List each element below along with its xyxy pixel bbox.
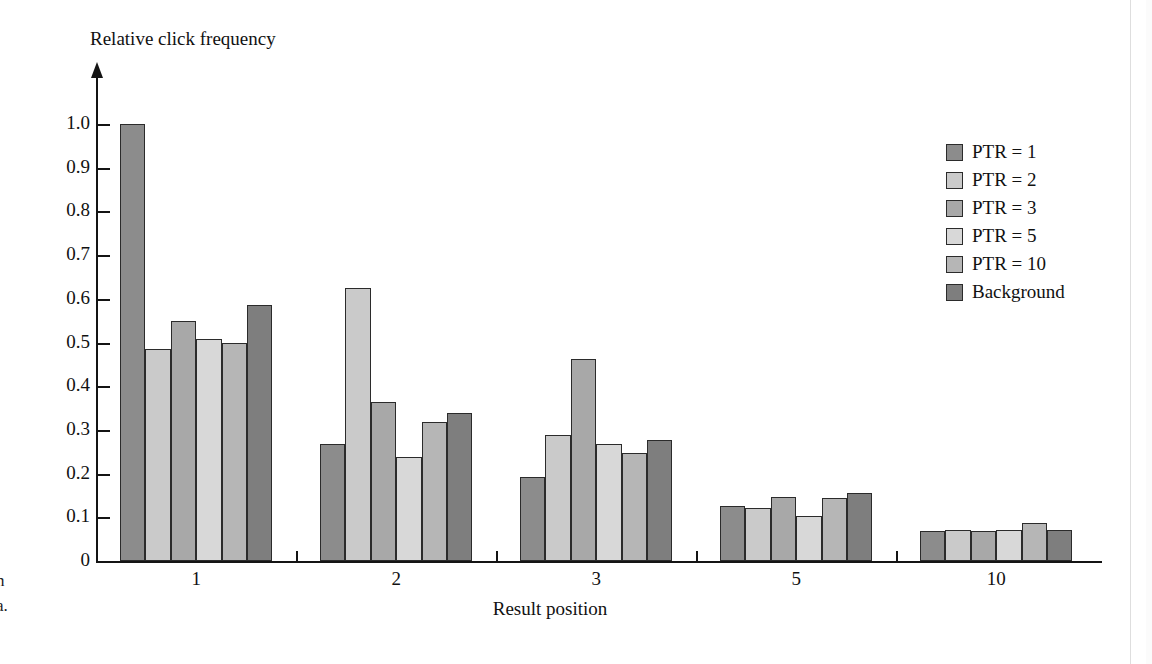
legend-swatch-icon (946, 172, 963, 189)
y-axis-tick: 0.7 (98, 255, 110, 257)
y-axis-tick-label: 0.7 (40, 243, 90, 265)
y-axis-tick: 0.1 (98, 517, 110, 519)
bar (222, 343, 247, 562)
legend-item: PTR = 1 (946, 138, 1065, 166)
y-axis-tick: 0.4 (98, 386, 110, 388)
bar (647, 440, 672, 561)
legend-label: PTR = 10 (972, 253, 1046, 275)
y-axis-tick: 0.2 (98, 474, 110, 476)
y-axis-tick: 0.5 (98, 343, 110, 345)
bar (996, 530, 1021, 561)
legend-label: PTR = 2 (972, 169, 1037, 191)
y-axis-tick-label: 0.5 (40, 331, 90, 353)
bar (745, 508, 770, 561)
bar (422, 422, 447, 561)
y-axis-title: Relative click frequency (90, 28, 276, 50)
legend-item: Background (946, 278, 1065, 306)
legend-label: Background (972, 281, 1065, 303)
x-axis-group-label: 1 (166, 568, 226, 590)
legend-item: PTR = 5 (946, 222, 1065, 250)
bar (920, 531, 945, 561)
bar (822, 498, 847, 561)
bar (1022, 523, 1047, 561)
bar (345, 288, 370, 561)
page-edge-line (1130, 0, 1131, 664)
bar (571, 359, 596, 561)
y-axis-tick-label: 0.4 (40, 374, 90, 396)
y-axis-line (96, 76, 98, 561)
bar (196, 339, 221, 561)
figure-bar-chart: n a. Relative click frequency Result pos… (0, 0, 1152, 664)
legend-swatch-icon (946, 200, 963, 217)
clipped-caption-line-1: n (0, 568, 36, 593)
legend-label: PTR = 5 (972, 225, 1037, 247)
bar (720, 506, 745, 561)
x-axis-line (96, 561, 1102, 563)
y-axis-tick-label: 0.2 (40, 462, 90, 484)
legend-label: PTR = 3 (972, 197, 1037, 219)
legend-swatch-icon (946, 144, 963, 161)
x-axis-group-label: 10 (966, 568, 1026, 590)
y-axis-tick-label: 0.6 (40, 287, 90, 309)
y-axis-tick: 0.9 (98, 168, 110, 170)
x-axis-group-label: 3 (566, 568, 626, 590)
bar (320, 444, 345, 561)
x-axis-group-label: 5 (766, 568, 826, 590)
y-axis-tick-label: 0.9 (40, 156, 90, 178)
legend-swatch-icon (946, 256, 963, 273)
y-axis-tick: 0.3 (98, 430, 110, 432)
legend-label: PTR = 1 (972, 141, 1037, 163)
x-axis-tick (896, 551, 898, 562)
y-axis-tick: 0.6 (98, 299, 110, 301)
bar (622, 453, 647, 561)
y-axis-arrow-icon (91, 62, 103, 78)
y-axis-tick-label: 0.1 (40, 505, 90, 527)
bar (371, 402, 396, 561)
bar (120, 124, 145, 561)
legend-swatch-icon (946, 284, 963, 301)
bar (796, 516, 821, 561)
y-axis-tick-label: 0.8 (40, 199, 90, 221)
y-axis-tick-label: 0 (40, 549, 90, 571)
bar (247, 305, 272, 561)
x-axis-tick (296, 551, 298, 562)
bar (520, 477, 545, 561)
y-axis-tick: 0.8 (98, 211, 110, 213)
legend-swatch-icon (946, 228, 963, 245)
x-axis-title: Result position (0, 598, 1100, 620)
legend-item: PTR = 10 (946, 250, 1065, 278)
bar (145, 349, 170, 561)
bar (1047, 530, 1072, 561)
legend-item: PTR = 2 (946, 166, 1065, 194)
x-axis-tick (496, 551, 498, 562)
x-axis-group-label: 2 (366, 568, 426, 590)
bar (447, 413, 472, 561)
page-edge-margin (1146, 0, 1152, 664)
y-axis-tick: 1.0 (98, 124, 110, 126)
y-axis-tick-label: 0.3 (40, 418, 90, 440)
chart-legend: PTR = 1PTR = 2PTR = 3PTR = 5PTR = 10Back… (946, 138, 1065, 306)
bar (771, 497, 796, 561)
x-axis-tick (696, 551, 698, 562)
bar (545, 435, 570, 561)
bar (971, 531, 996, 561)
bar (596, 444, 621, 561)
bar (847, 493, 872, 561)
legend-item: PTR = 3 (946, 194, 1065, 222)
bar (171, 321, 196, 561)
bar (396, 457, 421, 561)
bar (945, 530, 970, 561)
y-axis-tick-label: 1.0 (40, 112, 90, 134)
y-axis-tick: 0 (98, 561, 110, 563)
